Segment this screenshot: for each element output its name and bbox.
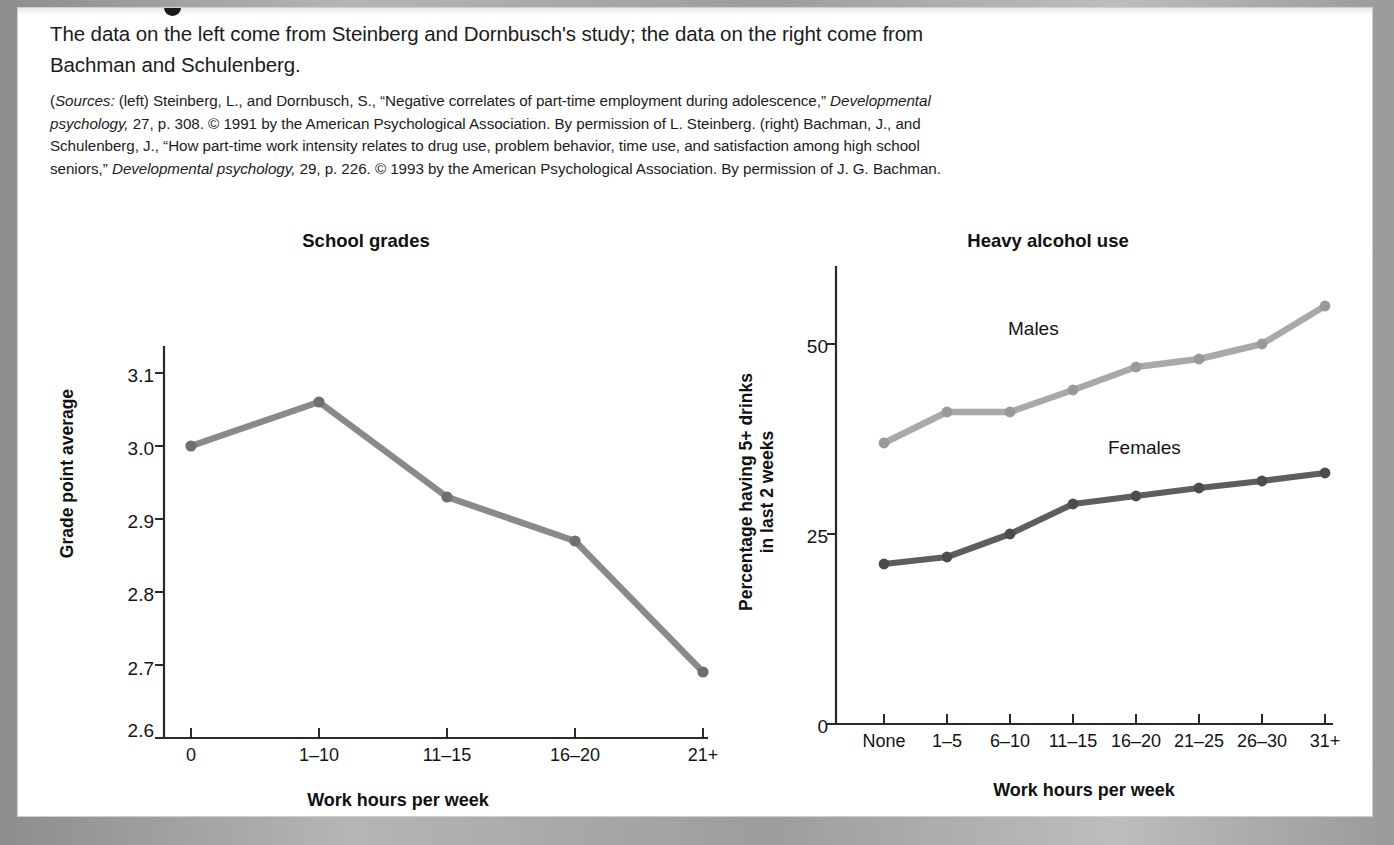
chart-right-series-females-markers xyxy=(879,468,1331,570)
chart-right-x-axis-title: Work hours per week xyxy=(934,780,1234,801)
chart-left-y-axis-title: Grade point average xyxy=(57,364,78,584)
chart-left-xtick-3: 16–20 xyxy=(525,745,625,766)
chart-left-title: School grades xyxy=(216,230,516,252)
chart-right-ytick-25: 25 xyxy=(786,526,828,548)
chart-right-y-axis-title-line1: Percentage having 5+ drinks xyxy=(736,373,756,611)
sources-segment-3: 29, p. 226. © 1993 by the American Psych… xyxy=(295,160,941,177)
chart-left-series-line xyxy=(191,402,703,672)
sources-journal-2: Developmental psychology, xyxy=(112,160,295,177)
chart-heavy-alcohol-use: Heavy alcohol use Percentage having 5+ d… xyxy=(708,218,1372,816)
chart-right-axis-lines xyxy=(836,266,1333,724)
chart-right-x-ticks xyxy=(884,714,1325,724)
chart-left-ytick-2-6: 2.6 xyxy=(96,720,154,742)
chart-right-y-ticks xyxy=(827,344,836,724)
caption-sources-text: (Sources: (left) Steinberg, L., and Dorn… xyxy=(50,90,960,180)
chart-right-xtick-31plus: 31+ xyxy=(1285,731,1365,752)
chart-left-xtick-2: 11–15 xyxy=(397,745,497,766)
chart-left-x-axis-title: Work hours per week xyxy=(248,790,548,811)
chart-left-xtick-0: 0 xyxy=(141,745,241,766)
chart-left-ytick-3-1: 3.1 xyxy=(96,365,154,387)
chart-left-data-markers xyxy=(185,396,708,677)
caption-bullet-icon xyxy=(164,8,181,16)
chart-school-grades: School grades Grade point average 2.6 2.… xyxy=(18,218,718,816)
chart-right-series-males-line xyxy=(884,306,1325,443)
chart-left-ytick-2-9: 2.9 xyxy=(96,511,154,533)
chart-left-x-ticks xyxy=(191,728,703,738)
chart-right-y-axis-title-line2: in last 2 weeks xyxy=(757,431,777,554)
chart-left-ytick-3-0: 3.0 xyxy=(96,438,154,460)
chart-right-title: Heavy alcohol use xyxy=(888,230,1208,252)
chart-left-ytick-2-7: 2.7 xyxy=(96,658,154,680)
chart-right-series-females-line xyxy=(884,473,1325,564)
cropped-caption-strip xyxy=(18,8,1372,15)
chart-right-y-axis-title: Percentage having 5+ drinksin last 2 wee… xyxy=(736,352,778,632)
chart-right-ytick-0: 0 xyxy=(786,716,828,738)
sources-segment-1: (left) Steinberg, L., and Dornbusch, S.,… xyxy=(115,92,831,109)
chart-left-y-ticks xyxy=(155,373,164,738)
chart-left-ytick-2-8: 2.8 xyxy=(96,584,154,606)
chart-right-ytick-50: 50 xyxy=(786,336,828,358)
chart-left-xtick-1: 1–10 xyxy=(269,745,369,766)
chart-left-axis-lines xyxy=(164,346,708,738)
chart-right-series-label-females: Females xyxy=(1108,437,1181,459)
chart-right-series-label-males: Males xyxy=(1008,318,1059,340)
sources-label: Sources: xyxy=(55,92,115,109)
chart-right-series-males-markers xyxy=(879,301,1331,449)
figure-page: The data on the left come from Steinberg… xyxy=(18,8,1372,816)
caption-lead-text: The data on the left come from Steinberg… xyxy=(50,18,950,80)
